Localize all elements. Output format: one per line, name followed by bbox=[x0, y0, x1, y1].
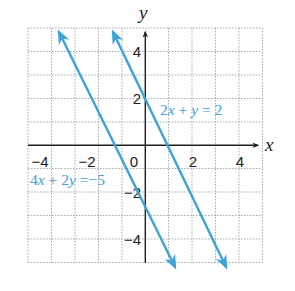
y-tick-label: −4 bbox=[124, 231, 141, 248]
equation-label-4x-plus-2y: 4x + 2y =−5 bbox=[30, 171, 105, 188]
y-tick-label: 2 bbox=[133, 90, 141, 107]
x-tick-label: 0 bbox=[130, 153, 138, 170]
x-tick-label: −2 bbox=[78, 153, 95, 170]
line-4x-plus-2y-eq-neg5 bbox=[59, 32, 175, 267]
coordinate-plane: x y −4 −2 0 2 4 4 2 −2 −4 2x + y = 2 4x … bbox=[0, 0, 295, 291]
x-tick-label: 2 bbox=[189, 153, 197, 170]
x-tick-label: 4 bbox=[236, 153, 244, 170]
y-tick-label: 4 bbox=[133, 43, 141, 60]
equation-label-2x-plus-y: 2x + y = 2 bbox=[160, 101, 222, 118]
x-tick-label: −4 bbox=[31, 153, 48, 170]
x-tick-labels: −4 −2 0 2 4 bbox=[31, 153, 244, 170]
x-axis-label: x bbox=[264, 134, 274, 155]
y-axis-label: y bbox=[137, 2, 148, 23]
